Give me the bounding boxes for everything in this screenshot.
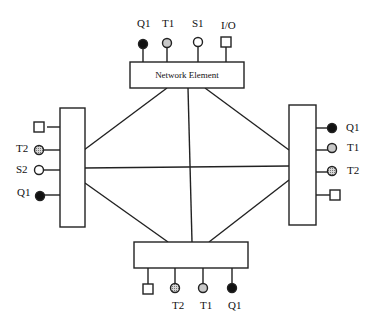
top-port-label: I/O <box>221 20 236 31</box>
t2-hatched-circle-icon <box>171 284 180 293</box>
right-port-label: T1 <box>347 142 359 153</box>
q1-filled-circle-icon <box>139 40 148 49</box>
q1-filled-circle-icon <box>36 192 45 201</box>
bottom-element-box <box>134 242 248 268</box>
right-square-icon <box>330 190 340 200</box>
link-top-left <box>84 88 167 150</box>
bottom-port-label: Q1 <box>228 300 241 311</box>
q1-filled-circle-icon <box>328 124 337 133</box>
link-top-right <box>205 88 289 150</box>
left-port-label: T2 <box>16 143 28 154</box>
s1-open-circle-icon <box>194 38 203 47</box>
bottom-port-label: T1 <box>200 300 212 311</box>
bottom-port-label: T2 <box>172 300 184 311</box>
right-element-box <box>289 105 316 225</box>
right-port-label: Q1 <box>346 122 359 133</box>
right-port-label: T2 <box>347 165 359 176</box>
top-port-label: S1 <box>192 18 204 29</box>
link-top-bottom <box>188 88 192 242</box>
left-element-box <box>60 108 85 227</box>
top-port-label: Q1 <box>137 18 150 29</box>
link-left-bottom <box>85 183 168 242</box>
q1-filled-circle-icon <box>228 284 237 293</box>
link-right-bottom <box>209 180 289 242</box>
io-square-icon <box>221 37 231 47</box>
left-square-icon <box>34 122 44 132</box>
s2-open-circle-icon <box>35 166 44 175</box>
link-left-right <box>84 166 289 168</box>
top-port-label: T1 <box>162 18 174 29</box>
left-port-label: Q1 <box>17 187 30 198</box>
network-element-label: Network Element <box>130 62 244 88</box>
t1-shaded-circle-icon <box>199 284 208 293</box>
t2-hatched-circle-icon <box>35 146 44 155</box>
t1-shaded-circle-icon <box>328 144 337 153</box>
network-diagram <box>0 0 371 326</box>
bottom-square-icon <box>143 284 153 294</box>
left-port-label: S2 <box>16 164 28 175</box>
t2-hatched-circle-icon <box>328 167 337 176</box>
t1-shaded-circle-icon <box>163 39 172 48</box>
